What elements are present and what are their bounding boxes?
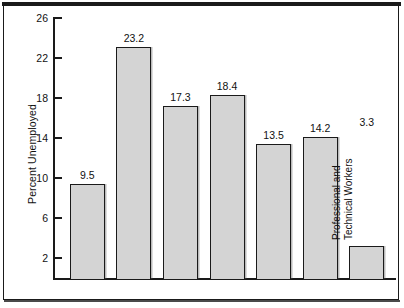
bar-group[interactable]: 16–19-Year-Olds23.2 — [116, 15, 151, 279]
y-axis-tick-label: 6 — [22, 213, 48, 223]
bar[interactable] — [349, 246, 384, 279]
bar-group[interactable]: Professional and Technical Workers3.3 — [349, 15, 384, 279]
y-axis-tick-label: 14 — [22, 133, 48, 143]
bar-group[interactable]: All Workers9.5 — [70, 15, 105, 279]
bar-value-label: 18.4 — [199, 81, 255, 92]
y-axis-tick-label: 22 — [22, 53, 48, 63]
y-axis-tick-label: 26 — [22, 13, 48, 23]
bar-value-label: 9.5 — [59, 170, 115, 181]
bar[interactable] — [163, 106, 198, 279]
bar-value-label: 3.3 — [339, 117, 395, 128]
bar[interactable] — [256, 144, 291, 279]
bar[interactable] — [70, 184, 105, 279]
y-axis-tick-label: 10 — [22, 173, 48, 183]
bar-group[interactable]: Blacks18.4 — [210, 15, 245, 279]
chart-figure: Percent Unemployed 261014182226 All Work… — [0, 0, 404, 308]
bar[interactable] — [210, 95, 245, 279]
bar[interactable] — [116, 47, 151, 279]
y-axis-tick-label: 2 — [22, 253, 48, 263]
bar-category-label: Professional and Technical Workers — [331, 158, 355, 240]
bar-group[interactable]: Hispanics13.5 — [256, 15, 291, 279]
bar-value-label: 23.2 — [106, 33, 162, 44]
bar-value-label: 17.3 — [152, 92, 208, 103]
figure-frame-bottom-shadow — [4, 300, 400, 302]
plot-area: All Workers9.516–19-Year-Olds23.2Laborer… — [53, 14, 396, 279]
bar-group[interactable]: Laborers17.3 — [163, 15, 198, 279]
y-axis-tick-label: 18 — [22, 93, 48, 103]
